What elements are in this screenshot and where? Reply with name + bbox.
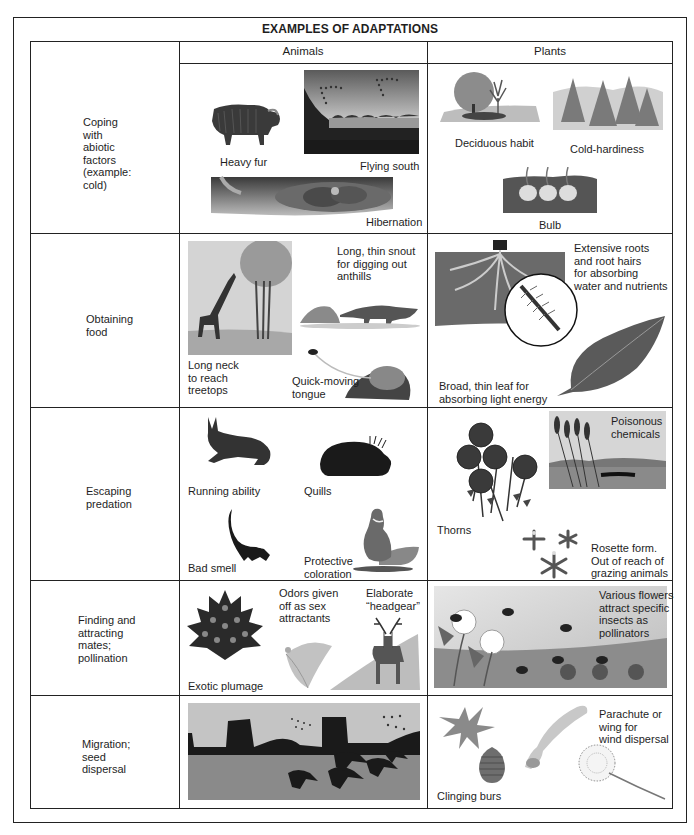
column-divider-label [179,41,180,809]
peacock-plumage-illustration [185,586,265,666]
row-label-abiotic: Coping with abiotic factors (example: co… [83,116,131,191]
caption-various-flowers: Various flowers attract specific insects… [599,589,673,639]
column-header-plants: Plants [427,45,673,57]
caption-extensive-roots: Extensive roots and root hairs for absor… [574,242,668,292]
bulbs-in-soil-illustration [503,167,597,213]
grouse-illustration [353,505,421,573]
caption-quills: Quills [304,485,332,498]
hare-illustration [198,413,274,471]
caption-parachute-wing: Parachute or wing for wind dispersal [599,708,669,746]
deciduous-trees-illustration [440,70,540,124]
row-divider-3 [30,580,673,581]
roses-with-thorns-illustration [453,421,545,523]
caption-bulb: Bulb [539,219,561,232]
porcupine-illustration [318,436,394,478]
caption-running-ability: Running ability [188,485,260,498]
musk-ox-illustration [208,101,284,149]
row-divider-1 [30,233,673,234]
row-divider-2 [30,407,673,408]
geese-migrating-illustration [304,70,419,154]
pinecone-bur-illustration [477,745,507,785]
caption-hibernation: Hibernation [366,216,422,229]
caption-long-neck: Long neck to reach treetops [188,359,239,397]
row-label-predation: Escaping predation [86,485,132,510]
caption-long-thin-snout: Long, thin snout for digging out anthill… [337,245,415,283]
leaf-illustration [553,316,667,400]
moth-illustration [278,636,334,690]
skunk-illustration [226,503,274,565]
conifer-forest-illustration [553,72,663,132]
horses-and-birds-migrating-illustration [188,703,420,800]
caption-elaborate-headgear: Elaborate “headgear” [366,587,420,612]
caption-thorns: Thorns [437,524,471,537]
caption-rosette-form: Rosette form. Out of reach of grazing an… [591,542,668,580]
rosette-plants-illustration [522,529,586,579]
dandelion-seed-illustration [577,743,667,801]
bears-hibernating-illustration [211,175,393,217]
caption-protective-coloration: Protective coloration [304,555,353,580]
column-header-animals: Animals [179,45,427,57]
column-divider-animals-plants [427,41,428,809]
caption-cold-hardiness: Cold-hardiness [570,143,644,156]
row-label-migration: Migration; seed dispersal [82,738,130,776]
row-label-food: Obtaining food [86,313,133,338]
caption-exotic-plumage: Exotic plumage [188,680,263,693]
caption-broad-thin-leaf: Broad, thin leaf for absorbing light ene… [439,380,547,405]
anteater-and-anthill-illustration [300,299,420,329]
caption-quick-moving-tongue: Quick-moving tongue [292,375,359,400]
row-divider-4 [30,695,673,696]
giraffe-and-tree-illustration [188,241,292,355]
caption-clinging-burs: Clinging burs [437,790,501,803]
caption-poisonous-chemicals: Poisonous chemicals [611,415,662,440]
deer-with-antlers-illustration [330,614,420,690]
caption-deciduous-habit: Deciduous habit [455,137,534,150]
table-title: EXAMPLES OF ADAPTATIONS [13,22,687,36]
header-divider [179,63,673,64]
row-label-mates: Finding and attracting mates; pollinatio… [78,614,136,664]
caption-flying-south: Flying south [360,160,419,173]
caption-bad-smell: Bad smell [188,562,236,575]
caption-heavy-fur: Heavy fur [220,156,267,169]
